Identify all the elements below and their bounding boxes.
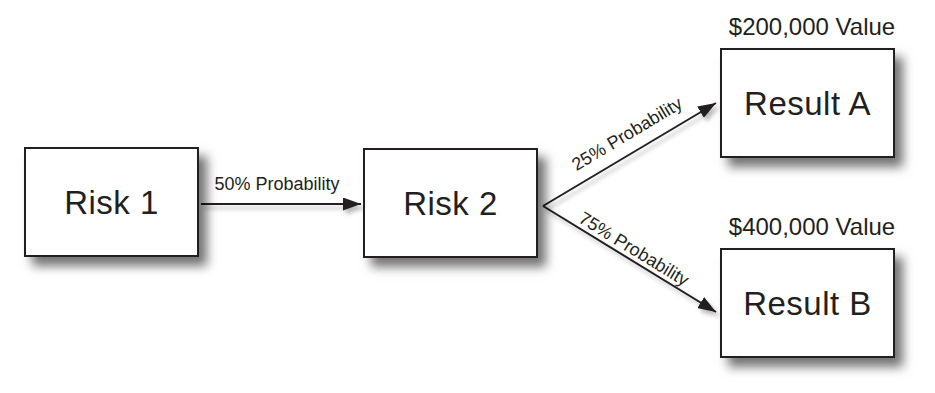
decision-tree-diagram: Risk 1 Risk 2 Result A Result B $200,000… bbox=[0, 0, 935, 393]
node-result-a: Result A bbox=[720, 48, 895, 158]
node-risk-1-label: Risk 1 bbox=[64, 186, 159, 219]
node-result-b: Result B bbox=[720, 248, 895, 358]
node-risk-2: Risk 2 bbox=[363, 148, 538, 258]
node-risk-2-label: Risk 2 bbox=[403, 187, 498, 220]
node-risk-1: Risk 1 bbox=[24, 147, 199, 257]
edge-label-50-probability: 50% Probability bbox=[214, 175, 339, 193]
edge-risk2-to-result-a bbox=[543, 103, 716, 206]
value-label-result-b: $400,000 Value bbox=[729, 215, 895, 239]
edge-risk2-to-result-b bbox=[543, 206, 716, 312]
node-result-a-label: Result A bbox=[744, 87, 871, 120]
value-label-result-a: $200,000 Value bbox=[729, 15, 895, 39]
node-result-b-label: Result B bbox=[743, 287, 872, 320]
